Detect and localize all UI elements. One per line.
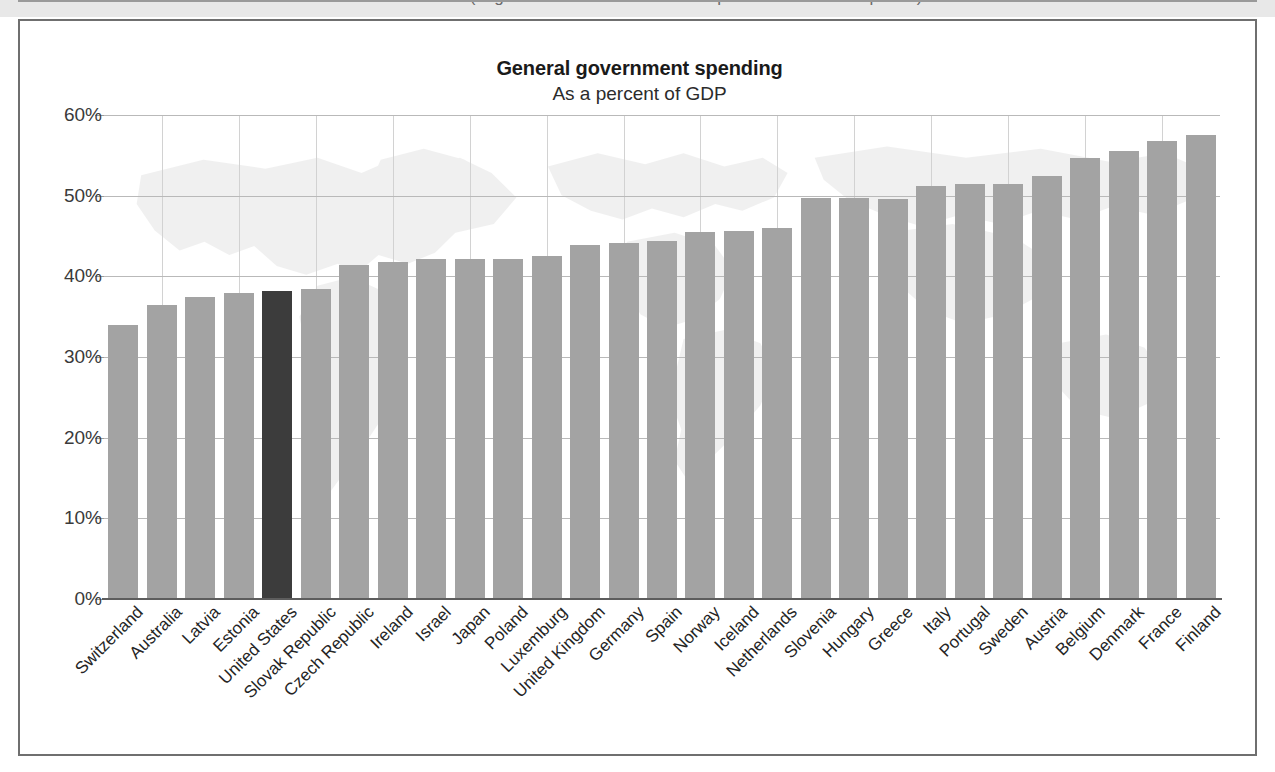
chart-title: General government spending [20, 57, 1259, 80]
bar-australia[interactable] [147, 305, 177, 599]
bar-france[interactable] [1147, 141, 1177, 599]
bar-norway[interactable] [685, 232, 715, 599]
bars-layer [104, 115, 1220, 599]
source-caption-strip: Source: OECD (Organisation for Economic … [0, 0, 1275, 17]
bar-italy[interactable] [916, 186, 946, 599]
x-axis-labels: SwitzerlandAustraliaLatviaEstoniaUnited … [104, 601, 1220, 751]
bar-japan[interactable] [455, 259, 485, 599]
caption-divider [18, 0, 1257, 2]
bar-switzerland[interactable] [108, 325, 138, 599]
bar-austria[interactable] [1032, 176, 1062, 599]
bar-estonia[interactable] [224, 293, 254, 600]
figure-frame: General government spending As a percent… [18, 19, 1257, 756]
bar-united-states[interactable] [262, 291, 292, 599]
bar-netherlands[interactable] [762, 228, 792, 599]
bar-luxemburg[interactable] [532, 256, 562, 599]
bar-iceland[interactable] [724, 231, 754, 599]
bar-poland[interactable] [493, 259, 523, 599]
bar-united-kingdom[interactable] [570, 245, 600, 599]
bar-greece[interactable] [878, 199, 908, 599]
chart-subtitle: As a percent of GDP [20, 83, 1259, 105]
plot-area: 60% 50% 40% 30% 20% 10% 0% [104, 115, 1220, 599]
chart-page: Source: OECD (Organisation for Economic … [0, 0, 1275, 772]
bar-belgium[interactable] [1070, 158, 1100, 599]
bar-denmark[interactable] [1109, 151, 1139, 599]
bar-portugal[interactable] [955, 184, 985, 599]
bar-finland[interactable] [1186, 135, 1216, 599]
bar-slovenia[interactable] [801, 198, 831, 599]
bar-sweden[interactable] [993, 184, 1023, 599]
bar-slovak-republic[interactable] [301, 289, 331, 599]
